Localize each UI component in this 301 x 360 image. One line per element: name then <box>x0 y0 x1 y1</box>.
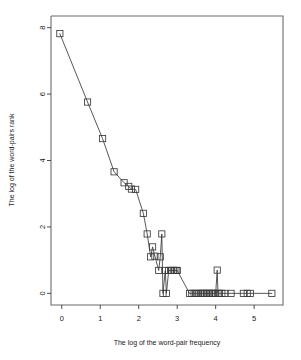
zipf-scatter-line-chart: 012345 02468 The log of the word-pair fr… <box>0 0 301 360</box>
chart-background <box>0 0 301 360</box>
y-tick-label: 2 <box>38 225 47 229</box>
chart-figure: 012345 02468 The log of the word-pair fr… <box>0 0 301 360</box>
x-axis-title: The log of the word-pair frequency <box>114 339 221 347</box>
y-tick-label: 4 <box>38 158 47 162</box>
x-tick-label: 5 <box>252 314 256 323</box>
y-tick-label: 0 <box>38 291 47 295</box>
y-tick-label: 6 <box>38 92 47 96</box>
x-tick-label: 3 <box>175 314 179 323</box>
x-tick-label: 1 <box>98 314 102 323</box>
x-tick-label: 0 <box>60 314 64 323</box>
x-tick-label: 2 <box>137 314 141 323</box>
y-axis-title: The log of the word-pairs rank <box>8 113 16 206</box>
x-tick-label: 4 <box>214 314 218 323</box>
y-tick-label: 8 <box>38 26 47 30</box>
